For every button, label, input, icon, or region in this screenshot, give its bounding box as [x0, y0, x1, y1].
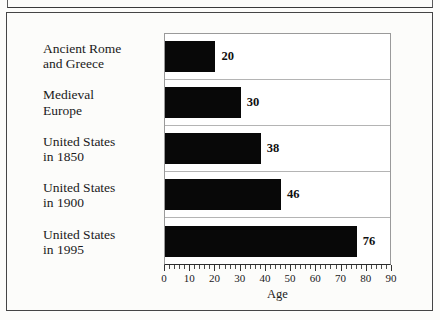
bar-row: 46 [165, 172, 390, 218]
bar [165, 179, 281, 210]
x-axis-minor-tick [330, 265, 331, 269]
category-row: United States in 1995 [43, 219, 161, 265]
x-axis-tick-label: 10 [184, 272, 195, 284]
x-axis-major-tick [315, 265, 316, 271]
x-axis-minor-tick [320, 265, 321, 269]
x-axis-minor-tick [209, 265, 210, 269]
x-axis-major-tick [341, 265, 342, 271]
plot-area: 20 30 38 46 76 [164, 33, 391, 265]
x-axis-tick-label: 70 [335, 272, 346, 284]
x-axis-minor-tick [310, 265, 311, 269]
category-row: Ancient Rome and Greece [43, 33, 161, 79]
x-axis-major-tick [366, 265, 367, 271]
x-axis-minor-tick [376, 265, 377, 269]
x-axis-minor-tick [235, 265, 236, 269]
bar-value-label: 46 [287, 188, 300, 201]
x-axis-minor-tick [351, 265, 352, 269]
bar-row: 20 [165, 34, 390, 80]
category-label: Ancient Rome and Greece [43, 41, 121, 71]
x-axis-major-tick [240, 265, 241, 271]
x-axis-tick-label: 30 [234, 272, 245, 284]
x-axis-major-tick [391, 265, 392, 271]
x-axis-title: Age [164, 287, 391, 302]
x-axis-major-tick [214, 265, 215, 271]
x-axis-minor-tick [255, 265, 256, 269]
x-axis-minor-tick [346, 265, 347, 269]
x-axis-major-tick [265, 265, 266, 271]
x-axis-tick-label: 90 [386, 272, 397, 284]
x-axis-minor-tick [280, 265, 281, 269]
x-axis-tick-label: 80 [360, 272, 371, 284]
x-axis-minor-tick [275, 265, 276, 269]
x-axis-minor-tick [194, 265, 195, 269]
chart-screenshot: Ancient Rome and Greece Medieval Europe … [0, 0, 440, 320]
x-axis-minor-tick [245, 265, 246, 269]
bar [165, 226, 357, 257]
x-axis-minor-tick [356, 265, 357, 269]
x-axis-minor-tick [260, 265, 261, 269]
x-axis-major-tick [164, 265, 165, 271]
bar-value-label: 20 [221, 50, 234, 63]
category-label-column: Ancient Rome and Greece Medieval Europe … [43, 33, 161, 265]
bar-row: 30 [165, 80, 390, 126]
category-label: Medieval Europe [43, 87, 94, 117]
x-axis-minor-tick [230, 265, 231, 269]
x-axis-minor-tick [361, 265, 362, 269]
bar-row: 38 [165, 126, 390, 172]
x-axis-tick-labels: 0102030405060708090 [164, 272, 391, 288]
category-row: United States in 1900 [43, 172, 161, 218]
x-axis-minor-tick [250, 265, 251, 269]
x-axis-minor-tick [325, 265, 326, 269]
bar-value-label: 38 [267, 142, 280, 155]
x-axis-minor-tick [300, 265, 301, 269]
bar [165, 133, 261, 164]
x-axis-minor-tick [285, 265, 286, 269]
figure-frame: Ancient Rome and Greece Medieval Europe … [6, 12, 433, 311]
x-axis-major-tick [189, 265, 190, 271]
x-axis-minor-tick [386, 265, 387, 269]
x-axis-minor-tick [305, 265, 306, 269]
category-label: United States in 1900 [43, 180, 115, 210]
x-axis-tick-label: 20 [209, 272, 220, 284]
x-axis-minor-tick [219, 265, 220, 269]
category-row: Medieval Europe [43, 79, 161, 125]
x-axis-minor-tick [381, 265, 382, 269]
category-row: United States in 1850 [43, 126, 161, 172]
category-label: United States in 1995 [43, 227, 115, 257]
bar-value-label: 30 [247, 96, 260, 109]
category-label: United States in 1850 [43, 134, 115, 164]
bar-value-label: 76 [363, 235, 376, 248]
x-axis-minor-tick [295, 265, 296, 269]
x-axis-tick-label: 40 [259, 272, 270, 284]
x-axis-minor-tick [199, 265, 200, 269]
x-axis-minor-tick [270, 265, 271, 269]
x-axis-minor-tick [174, 265, 175, 269]
x-axis-minor-tick [225, 265, 226, 269]
bar [165, 41, 215, 72]
x-axis-tick-label: 50 [285, 272, 296, 284]
x-axis-minor-tick [179, 265, 180, 269]
bar-row: 76 [165, 218, 390, 264]
x-axis-minor-tick [169, 265, 170, 269]
bar-chart: Ancient Rome and Greece Medieval Europe … [7, 13, 434, 312]
x-axis-ticks [164, 265, 391, 272]
x-axis-tick-label: 60 [310, 272, 321, 284]
x-axis-minor-tick [204, 265, 205, 269]
bar [165, 87, 241, 118]
x-axis-minor-tick [184, 265, 185, 269]
page-top-frame-fragment [7, 0, 433, 8]
x-axis-minor-tick [371, 265, 372, 269]
x-axis-major-tick [290, 265, 291, 271]
x-axis-tick-label: 0 [161, 272, 167, 284]
x-axis-minor-tick [336, 265, 337, 269]
